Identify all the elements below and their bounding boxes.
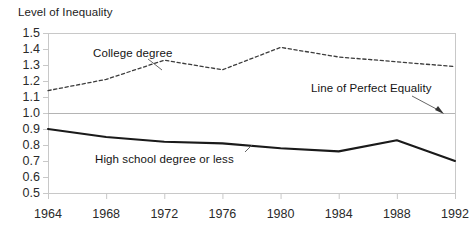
- data-series-group: [48, 47, 455, 161]
- annotation-college-degree: College degree: [93, 47, 172, 59]
- y-tick-marks: [43, 34, 48, 194]
- arrowhead-perfect-equality: [435, 106, 444, 114]
- annotation-line-of-perfect-equality: Line of Perfect Equality: [311, 82, 432, 94]
- plot-canvas: [0, 0, 473, 232]
- inequality-line-chart: Level of Inequality 1.51.41.31.21.11.00.…: [0, 0, 473, 232]
- annotation-high-school-degree-or-less: High school degree or less: [95, 153, 234, 165]
- annotation-leader-lines: [148, 59, 444, 152]
